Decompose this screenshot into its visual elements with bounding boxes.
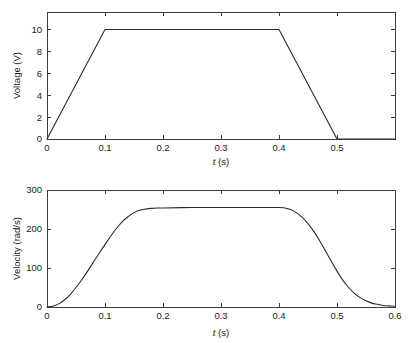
x-tick-label: 0.5 [330,310,343,321]
voltage-chart-svg: 00.10.20.30.40.5 0246810 t (s) Voltage (… [0,0,420,172]
x-tick-label: 0.2 [156,310,169,321]
x-tick-label: 0 [44,142,49,153]
chart-panel-voltage: 00.10.20.30.40.5 0246810 t (s) Voltage (… [0,0,420,172]
x-tick-label: 0.3 [214,142,227,153]
velocity-y-axis-label: Velocity (rad/s) [11,217,22,280]
voltage-y-tick-labels: 0246810 [31,24,42,144]
y-tick-label: 10 [31,24,42,35]
voltage-x-axis-label: t (s) [213,156,229,167]
x-tick-label: 0.1 [98,310,111,321]
velocity-x-tick-labels: 00.10.20.30.40.50.6 [44,310,401,321]
y-tick-label: 0 [37,301,42,312]
voltage-plot-frame [47,12,395,139]
voltage-x-tick-labels: 00.10.20.30.40.5 [44,142,343,153]
x-tick-label: 0.3 [214,310,227,321]
velocity-data-curve [47,208,395,307]
velocity-y-tick-labels: 0100200300 [26,184,42,312]
y-tick-label: 100 [26,262,42,273]
x-tick-label: 0.1 [98,142,111,153]
x-tick-label: 0 [44,310,49,321]
velocity-chart-svg: 00.10.20.30.40.50.6 0100200300 t (s) Vel… [0,170,420,343]
voltage-tick-marks [47,12,395,139]
x-tick-label: 0.2 [156,142,169,153]
figure-container: 00.10.20.30.40.5 0246810 t (s) Voltage (… [0,0,420,343]
x-tick-label: 0.4 [272,142,285,153]
y-tick-label: 0 [37,133,42,144]
velocity-x-axis-label: t (s) [213,327,229,338]
x-tick-label: 0.4 [272,310,285,321]
y-tick-label: 8 [37,46,42,57]
x-tick-label: 0.6 [388,310,401,321]
chart-panel-velocity: 00.10.20.30.40.50.6 0100200300 t (s) Vel… [0,170,420,343]
y-tick-label: 4 [37,90,42,101]
x-tick-label: 0.5 [330,142,343,153]
y-tick-label: 2 [37,112,42,123]
y-tick-label: 6 [37,68,42,79]
y-tick-label: 300 [26,184,42,195]
voltage-data-curve [47,30,395,139]
voltage-y-axis-label: Voltage (V) [11,52,22,99]
y-tick-label: 200 [26,223,42,234]
